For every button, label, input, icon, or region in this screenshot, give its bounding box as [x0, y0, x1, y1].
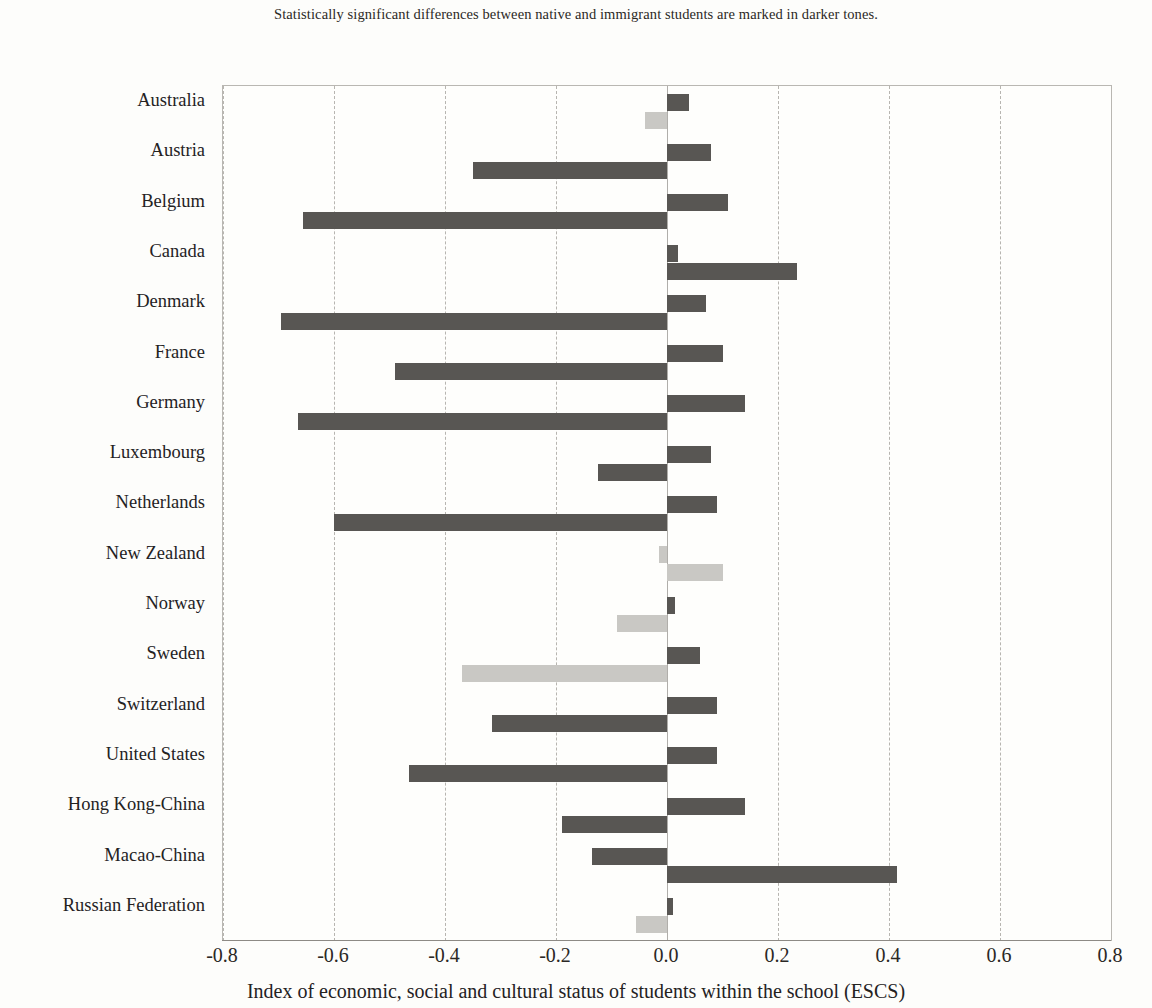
y-axis-label-macao-china: Macao-China [0, 844, 205, 865]
chart-note: Statistically significant differences be… [0, 6, 1152, 23]
gridline--0.8 [223, 86, 224, 941]
y-axis-label-hong-kong-china: Hong Kong-China [0, 794, 205, 815]
y-axis-label-australia: Australia [0, 90, 205, 111]
bar-canada-native-students [667, 245, 678, 262]
bar-australia-immigrant-students [645, 112, 667, 129]
bar-macao-china-native-students [592, 848, 667, 865]
bar-new-zealand-native-students [659, 546, 667, 563]
y-axis-label-austria: Austria [0, 140, 205, 161]
bar-sweden-native-students [667, 647, 700, 664]
bar-france-immigrant-students [395, 363, 667, 380]
y-axis-label-united-states: United States [0, 743, 205, 764]
chart-container: AustraliaAustriaBelgiumCanadaDenmarkFran… [0, 60, 1152, 1008]
bar-sweden-immigrant-students [462, 665, 667, 682]
x-axis-line [222, 940, 1111, 941]
y-axis-label-switzerland: Switzerland [0, 693, 205, 714]
y-axis-label-canada: Canada [0, 240, 205, 261]
bar-canada-immigrant-students [667, 263, 797, 280]
y-axis-label-sweden: Sweden [0, 643, 205, 664]
x-tick-1: -0.6 [317, 944, 349, 967]
bar-denmark-immigrant-students [281, 313, 667, 330]
bar-switzerland-immigrant-students [492, 715, 667, 732]
bar-macao-china-immigrant-students [667, 866, 897, 883]
bar-hong-kong-china-immigrant-students [562, 816, 667, 833]
gridline-0.8 [1111, 86, 1112, 941]
bar-switzerland-native-students [667, 697, 717, 714]
y-axis-label-germany: Germany [0, 391, 205, 412]
gridline-0.4 [889, 86, 890, 941]
bar-netherlands-native-students [667, 496, 717, 513]
y-axis-label-luxembourg: Luxembourg [0, 442, 205, 463]
x-tick-7: 0.6 [987, 944, 1012, 967]
gridline-0.6 [1000, 86, 1001, 941]
bar-austria-native-students [667, 144, 711, 161]
bar-germany-immigrant-students [298, 413, 667, 430]
x-tick-3: -0.2 [539, 944, 571, 967]
bar-united-states-immigrant-students [409, 765, 667, 782]
bar-norway-immigrant-students [617, 615, 667, 632]
y-axis-label-belgium: Belgium [0, 190, 205, 211]
bar-denmark-native-students [667, 295, 706, 312]
bar-russian-federation-native-students [667, 898, 673, 915]
bar-luxembourg-immigrant-students [598, 464, 667, 481]
bar-austria-immigrant-students [473, 162, 667, 179]
gridline-0.2 [778, 86, 779, 941]
x-tick-8: 0.8 [1098, 944, 1123, 967]
bar-france-native-students [667, 345, 723, 362]
y-axis-label-new-zealand: New Zealand [0, 542, 205, 563]
x-tick-0: -0.8 [206, 944, 238, 967]
bar-germany-native-students [667, 395, 745, 412]
bar-hong-kong-china-native-students [667, 798, 745, 815]
y-axis-label-norway: Norway [0, 593, 205, 614]
bar-united-states-native-students [667, 747, 717, 764]
bar-australia-native-students [667, 94, 689, 111]
bar-netherlands-immigrant-students [334, 514, 667, 531]
y-axis-label-denmark: Denmark [0, 291, 205, 312]
y-axis-label-france: France [0, 341, 205, 362]
x-tick-2: -0.4 [428, 944, 460, 967]
bar-belgium-native-students [667, 194, 728, 211]
y-axis-label-netherlands: Netherlands [0, 492, 205, 513]
bar-luxembourg-native-students [667, 446, 711, 463]
plot-area [222, 85, 1112, 941]
x-tick-6: 0.4 [876, 944, 901, 967]
y-axis-label-russian-federation: Russian Federation [0, 894, 205, 915]
bar-norway-native-students [667, 597, 675, 614]
x-tick-4: 0.0 [654, 944, 679, 967]
bar-new-zealand-immigrant-students [667, 564, 723, 581]
bar-russian-federation-immigrant-students [636, 916, 667, 933]
bar-belgium-immigrant-students [303, 212, 667, 229]
x-tick-5: 0.2 [765, 944, 790, 967]
x-axis-title: Index of economic, social and cultural s… [0, 980, 1152, 1003]
